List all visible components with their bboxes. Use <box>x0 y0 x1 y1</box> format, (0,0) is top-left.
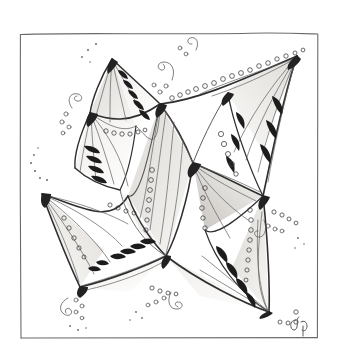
zentangle-tile: fR <box>0 0 346 363</box>
artwork-canvas: fR <box>0 0 346 363</box>
